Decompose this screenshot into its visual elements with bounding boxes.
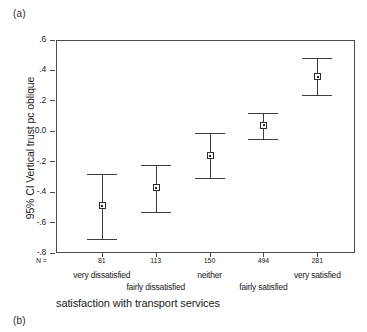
error-bar-cap-upper	[248, 113, 278, 114]
y-tick-label: 0.0	[0, 125, 46, 135]
error-bar-cap-lower	[87, 239, 117, 240]
y-tick-label: .6	[0, 34, 46, 44]
error-bar-cap-upper	[141, 165, 171, 166]
y-tick-mark	[50, 222, 55, 223]
mean-marker	[99, 202, 106, 209]
x-category-label: very dissatisfied	[52, 270, 152, 280]
y-tick-label: -.8	[0, 247, 46, 257]
panel-label-b: (b)	[13, 315, 26, 326]
y-tick-mark	[50, 192, 55, 193]
figure-panel-a: (a) (b) 95% CI Vertical trust pc oblique…	[0, 0, 367, 332]
y-tick-mark	[50, 40, 55, 41]
x-category-label: very satisfied	[267, 270, 367, 280]
error-bar-cap-lower	[302, 95, 332, 96]
y-tick-label: -.4	[0, 186, 46, 196]
mean-marker	[314, 73, 321, 80]
error-bar-cap-lower	[141, 212, 171, 213]
y-tick-mark	[50, 70, 55, 71]
y-tick-mark	[50, 131, 55, 132]
n-value-label: 113	[136, 257, 176, 264]
mean-marker	[207, 152, 214, 159]
n-value-label: 281	[297, 257, 337, 264]
y-tick-label: -.6	[0, 217, 46, 227]
n-value-label: 494	[243, 257, 283, 264]
error-bar-cap-upper	[87, 174, 117, 175]
y-tick-label: .2	[0, 95, 46, 105]
y-tick-label: .4	[0, 64, 46, 74]
n-row-label: N =	[36, 257, 47, 264]
x-category-label: fairly dissatisfied	[106, 282, 206, 292]
y-tick-mark	[50, 161, 55, 162]
y-tick-label: -.2	[0, 156, 46, 166]
error-bar-cap-lower	[195, 178, 225, 179]
x-category-label: neither	[160, 270, 260, 280]
mean-marker	[260, 122, 267, 129]
x-category-label: fairly satisfied	[213, 282, 313, 292]
mean-marker	[153, 184, 160, 191]
panel-label-a: (a)	[13, 8, 26, 19]
y-tick-mark	[50, 253, 55, 254]
n-value-label: 81	[82, 257, 122, 264]
error-bar-cap-lower	[248, 139, 278, 140]
x-axis-title: satisfaction with transport services	[56, 297, 220, 309]
error-bar-cap-upper	[195, 133, 225, 134]
error-bar-cap-upper	[302, 58, 332, 59]
n-value-label: 150	[190, 257, 230, 264]
y-tick-mark	[50, 100, 55, 101]
